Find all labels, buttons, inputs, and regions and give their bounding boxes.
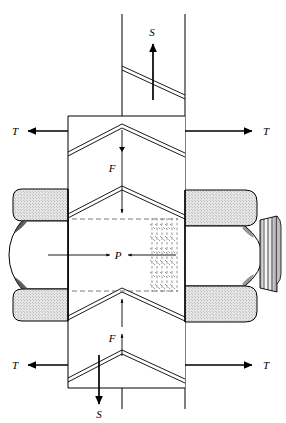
label-tensile-load-bottom-right: T bbox=[263, 359, 270, 371]
label-shear-load-top: S bbox=[149, 26, 155, 38]
label-clamp-load-upper: F bbox=[108, 162, 116, 174]
bolt-threaded-end bbox=[260, 216, 281, 292]
label-tensile-load-top-left: T bbox=[12, 125, 19, 137]
bolted-joint-drawing: S T T F P F T T S bbox=[0, 0, 286, 423]
label-tensile-load-top-right: T bbox=[263, 125, 270, 137]
bolted-joint-figure: S T T F P F T T S bbox=[0, 0, 286, 423]
hex-nut-right bbox=[185, 190, 262, 322]
front-plate bbox=[68, 116, 185, 388]
label-clamp-load-lower: F bbox=[108, 332, 116, 344]
label-shear-load-bottom: S bbox=[96, 408, 102, 420]
label-bearing-pressure: P bbox=[114, 249, 122, 261]
label-tensile-load-bottom-left: T bbox=[12, 359, 19, 371]
